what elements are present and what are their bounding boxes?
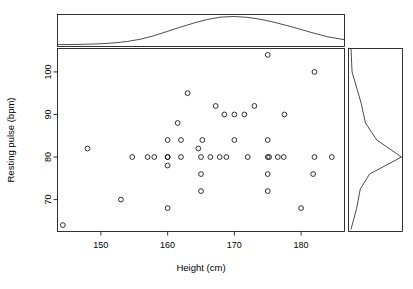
top-marginal-box bbox=[58, 15, 345, 47]
data-point bbox=[165, 206, 170, 211]
scatter-points-group bbox=[60, 52, 334, 227]
data-point bbox=[242, 112, 247, 117]
height-density-curve bbox=[58, 17, 345, 45]
y-tick-label-90: 90 bbox=[44, 109, 54, 119]
data-point bbox=[329, 155, 334, 160]
data-point bbox=[145, 155, 150, 160]
main-plot-box bbox=[58, 49, 345, 232]
data-point bbox=[265, 138, 270, 143]
data-point bbox=[199, 189, 204, 194]
chart-root: 150160170180 708090100 Height (cm) Resti… bbox=[0, 0, 413, 289]
data-point bbox=[222, 112, 227, 117]
data-point bbox=[200, 138, 205, 143]
x-axis-tick-labels: 150160170180 bbox=[93, 240, 308, 250]
x-tick-label-160: 160 bbox=[160, 240, 175, 250]
x-tick-label-150: 150 bbox=[93, 240, 108, 250]
x-axis-ticks bbox=[101, 232, 301, 236]
y-tick-label-100: 100 bbox=[44, 64, 54, 79]
data-point bbox=[232, 138, 237, 143]
data-point bbox=[265, 172, 270, 177]
data-point bbox=[152, 155, 157, 160]
data-point bbox=[199, 172, 204, 177]
data-point bbox=[165, 155, 170, 160]
data-point bbox=[299, 206, 304, 211]
scatter-plot-with-marginal-densities: 150160170180 708090100 Height (cm) Resti… bbox=[0, 0, 413, 289]
data-point bbox=[175, 121, 180, 126]
y-tick-label-80: 80 bbox=[44, 152, 54, 162]
data-point bbox=[252, 104, 257, 109]
data-point bbox=[119, 197, 124, 202]
top-marginal-panel bbox=[58, 15, 345, 47]
x-axis-title: Height (cm) bbox=[176, 262, 225, 273]
data-point bbox=[165, 138, 170, 143]
data-point bbox=[130, 155, 135, 160]
x-tick-label-180: 180 bbox=[294, 240, 309, 250]
data-point bbox=[265, 189, 270, 194]
y-tick-label-70: 70 bbox=[44, 195, 54, 205]
data-point bbox=[312, 155, 317, 160]
data-point bbox=[311, 172, 316, 177]
data-point bbox=[208, 155, 213, 160]
data-point bbox=[275, 155, 280, 160]
data-point bbox=[217, 155, 222, 160]
data-point bbox=[185, 91, 190, 96]
y-axis-tick-labels: 708090100 bbox=[44, 64, 54, 204]
data-point bbox=[60, 223, 65, 228]
y-axis-ticks bbox=[54, 72, 58, 200]
data-point bbox=[282, 112, 287, 117]
main-scatter-panel: 150160170180 708090100 bbox=[44, 49, 345, 250]
data-point bbox=[165, 163, 170, 168]
y-axis-title: Resting pulse (bpm) bbox=[5, 97, 16, 182]
pulse-density-curve bbox=[351, 49, 401, 230]
right-marginal-panel bbox=[349, 49, 403, 232]
data-point bbox=[213, 104, 218, 109]
data-point bbox=[224, 155, 229, 160]
data-point bbox=[199, 155, 204, 160]
data-point bbox=[232, 112, 237, 117]
right-marginal-box bbox=[349, 49, 403, 232]
data-point bbox=[265, 52, 270, 57]
data-point bbox=[179, 138, 184, 143]
x-tick-label-170: 170 bbox=[227, 240, 242, 250]
data-point bbox=[312, 70, 317, 75]
data-point bbox=[245, 155, 250, 160]
data-point bbox=[281, 155, 286, 160]
data-point bbox=[196, 146, 201, 151]
data-point bbox=[85, 146, 90, 151]
data-point bbox=[179, 155, 184, 160]
